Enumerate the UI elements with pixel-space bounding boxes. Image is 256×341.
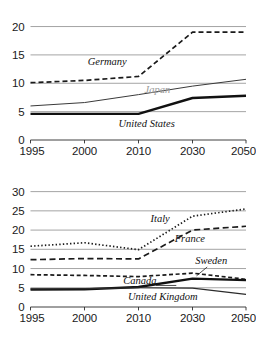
series-label-italy: Italy: [149, 213, 170, 224]
gridlines: [31, 192, 247, 288]
y-tick-label: 25: [12, 205, 24, 217]
x-tick-label: 2000: [72, 145, 97, 157]
gridlines: [31, 27, 247, 112]
x-tick-label: 2030: [180, 145, 205, 157]
series-label-sweden: Sweden: [195, 255, 227, 266]
y-tick-label: 5: [18, 282, 24, 294]
chart-figure: 0510152019952000201020302050GermanyJapan…: [0, 0, 256, 341]
x-tick-label: 2000: [72, 312, 97, 324]
x-tick-label: 1995: [20, 145, 45, 157]
y-axis-tick-labels: 051015202530: [12, 186, 24, 313]
series-label-united-states: United States: [118, 118, 174, 129]
data-series-group: [31, 32, 247, 114]
series-labels-group: GermanyJapanUnited States: [88, 56, 175, 129]
y-tick-label: 5: [18, 106, 24, 118]
y-tick-label: 10: [12, 263, 24, 275]
y-tick-label: 20: [12, 224, 24, 236]
y-tick-label: 15: [12, 243, 24, 255]
y-tick-label: 10: [12, 77, 24, 89]
x-axis-tick-labels: 19952000201020302050: [20, 145, 256, 157]
y-tick-label: 30: [12, 186, 24, 198]
top-chart-svg: 0510152019952000201020302050GermanyJapan…: [0, 0, 256, 172]
series-label-canada: Canada: [123, 275, 156, 286]
series-label-united-kingdom: United Kingdom: [128, 291, 198, 302]
bottom-chart-svg: 05101520253019952000201020302050ItalyFra…: [0, 169, 256, 341]
chart-panel-bottom: 05101520253019952000201020302050ItalyFra…: [0, 169, 256, 341]
x-tick-label: 1995: [20, 312, 45, 324]
series-label-germany: Germany: [88, 56, 127, 67]
x-tick-label: 2050: [231, 312, 256, 324]
series-label-france: France: [174, 233, 206, 244]
series-line-germany: [31, 32, 247, 82]
series-line-united-states: [31, 96, 247, 114]
x-axis-tick-labels: 19952000201020302050: [20, 312, 256, 324]
x-tick-label: 2010: [126, 312, 151, 324]
y-tick-label: 20: [12, 21, 24, 33]
chart-panel-top: 0510152019952000201020302050GermanyJapan…: [0, 0, 256, 172]
x-tick-label: 2030: [180, 312, 205, 324]
x-tick-label: 2010: [126, 145, 151, 157]
x-tick-label: 2050: [231, 145, 256, 157]
y-axis-tick-labels: 05101520: [12, 21, 24, 146]
series-label-japan: Japan: [145, 84, 171, 95]
x-axis: [31, 140, 247, 143]
x-axis: [31, 307, 247, 310]
y-tick-label: 15: [12, 49, 24, 61]
